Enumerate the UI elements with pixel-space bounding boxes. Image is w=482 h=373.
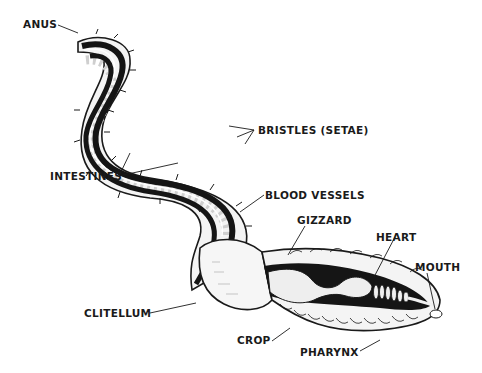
label-blood-vessels: BLOOD VESSELS (265, 189, 365, 201)
clitellum (199, 240, 272, 310)
label-heart: HEART (376, 231, 416, 243)
label-anus: ANUS (23, 18, 57, 30)
label-crop: CROP (237, 334, 271, 346)
label-bristles: BRISTLES (SETAE) (258, 124, 369, 136)
label-intestines: INTESTINES (50, 170, 122, 182)
label-mouth: MOUTH (415, 261, 460, 273)
label-gizzard: GIZZARD (297, 214, 352, 226)
label-pharynx: PHARYNX (300, 346, 359, 358)
label-clitellum: CLITELLUM (84, 307, 151, 319)
earthworm-illustration (0, 0, 482, 373)
